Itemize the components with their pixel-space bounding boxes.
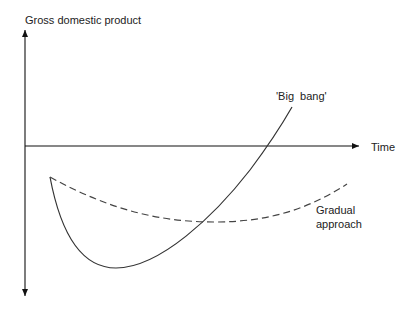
gradual-approach-label-line2: approach [316,218,362,231]
x-axis-label: Time [371,141,395,154]
diagram-canvas [0,0,414,312]
gradual-approach-label-line1: Gradual [316,204,355,217]
y-axis-label: Gross domestic product [25,14,141,27]
big-bang-curve [50,107,292,268]
gradual-approach-curve [50,177,347,222]
big-bang-label: 'Big bang' [276,90,327,103]
